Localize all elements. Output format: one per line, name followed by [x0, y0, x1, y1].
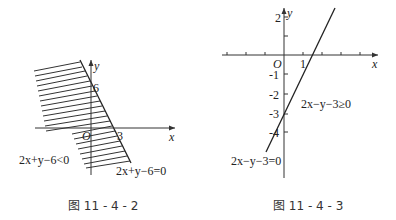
y-tick-label-neg2: -2	[269, 89, 279, 101]
figure-11-4-2: y 6 O 3 x 2x+y−6<0 2x+y−6=0 图 11 - 4 - 2	[0, 0, 200, 220]
x-axis-label: x	[372, 58, 377, 70]
figure-caption: 图 11 - 4 - 2	[68, 196, 138, 213]
y-ticks	[284, 17, 288, 132]
x-intercept-label: 3	[117, 130, 123, 142]
y-tick-label-neg4: -4	[269, 127, 279, 139]
y-axis-arrow-icon	[89, 60, 94, 66]
y-axis-label: y	[287, 7, 292, 19]
y-axis-arrow-icon	[282, 8, 287, 14]
graph-2x-plus-y-minus-6	[0, 0, 200, 220]
y-intercept-label: 6	[93, 82, 99, 94]
y-tick-label-2: 2	[275, 12, 281, 24]
graph-2x-minus-y-minus-3	[200, 0, 396, 220]
figure-caption: 图 11 - 4 - 3	[273, 196, 343, 213]
region-label: 2x+y−6<0	[19, 154, 69, 166]
figure-11-4-3: y 2 O 1 x -1 -2 -3 -4 2x−y−3≥0 2x−y−3=0 …	[200, 0, 396, 220]
y-axis-label: y	[94, 60, 99, 72]
x-axis-label: x	[169, 131, 174, 143]
y-tick-label-neg3: -3	[269, 108, 279, 120]
line-label: 2x−y−3=0	[231, 155, 281, 167]
y-tick-label-neg1: -1	[269, 69, 279, 81]
line-label: 2x+y−6=0	[116, 165, 166, 177]
region-label: 2x−y−3≥0	[301, 98, 351, 110]
x-tick-label-1: 1	[300, 58, 306, 70]
origin-label: O	[82, 130, 91, 142]
